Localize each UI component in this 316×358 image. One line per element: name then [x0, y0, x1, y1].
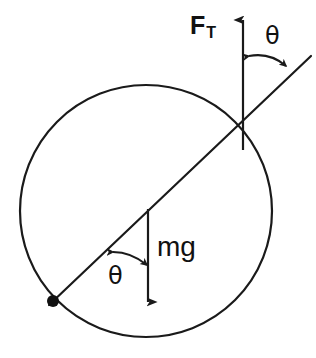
tension-force-subscript: T — [206, 24, 216, 41]
tension-force-symbol: F — [190, 11, 205, 39]
theta-angle-arc-top — [249, 55, 286, 66]
theta-bottom-label: θ — [108, 264, 123, 288]
physics-diagram: FT θ θ mg — [0, 0, 316, 358]
mass-point-dot — [47, 295, 59, 307]
tension-force-label: FT — [190, 13, 216, 41]
theta-top-label: θ — [265, 24, 280, 48]
weight-force-label: mg — [157, 233, 196, 261]
diagram-canvas — [0, 0, 316, 358]
radius-line — [49, 56, 311, 305]
